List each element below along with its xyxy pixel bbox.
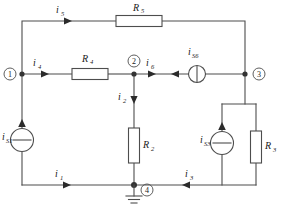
current-i1-subscript: 1: [60, 174, 63, 181]
current-source-iS1-label: i: [2, 131, 5, 142]
current-i6-arrowhead: [148, 70, 156, 77]
resistor-R5-subscript: 5: [141, 7, 145, 14]
node-2: 2: [128, 55, 140, 77]
current-i2: i 2: [118, 91, 138, 104]
current-source-iS1: i S1: [2, 119, 34, 152]
resistor-R4-subscript: 4: [90, 58, 94, 65]
resistor-R5-body: [116, 16, 162, 27]
node-3-dot: [242, 71, 247, 76]
current-source-iS3-label: i: [200, 134, 203, 145]
circuit-svg-canvas: R 5 R 4 R 2 R 3 i S1: [0, 0, 288, 215]
current-i5-arrowhead: [64, 17, 72, 24]
node-2-number: 2: [132, 57, 136, 66]
ground-symbol: [126, 185, 142, 203]
current-source-iS1-subscript: S1: [6, 137, 13, 144]
current-source-iS3-arrow: [218, 122, 226, 130]
current-i3-label: i: [185, 168, 188, 179]
resistor-R4-body: [72, 69, 108, 80]
current-source-iS6-arrow: [171, 70, 179, 77]
current-source-iS1-arrow: [18, 119, 26, 127]
resistor-R5: R 5: [116, 2, 162, 27]
current-source-iS6-label: i: [188, 46, 191, 57]
current-i5-subscript: 5: [61, 10, 65, 17]
resistor-R3: R 3: [251, 131, 278, 163]
node-3: 3: [242, 68, 265, 80]
current-i2-subscript: 2: [123, 97, 127, 104]
current-source-iS6: i S6: [171, 46, 206, 83]
resistor-R3-body: [251, 131, 262, 163]
resistor-R4: R 4: [72, 53, 108, 80]
resistor-R3-label: R: [264, 140, 271, 151]
current-i4-subscript: 4: [38, 63, 42, 70]
wire-top-left-segment: [22, 21, 116, 74]
resistor-R2-subscript: 2: [151, 145, 155, 152]
current-i3-subscript: 3: [189, 174, 194, 181]
current-i6-subscript: 6: [151, 63, 155, 70]
node-1-dot: [19, 71, 24, 76]
node-1-number: 1: [8, 70, 12, 79]
current-i2-label: i: [118, 91, 121, 102]
resistor-R2: R 2: [129, 128, 156, 163]
current-i1-arrowhead: [63, 181, 71, 188]
resistor-R3-subscript: 3: [272, 146, 277, 153]
resistor-R4-label: R: [81, 53, 88, 64]
current-i2-arrowhead: [130, 96, 137, 104]
current-source-iS6-subscript: S6: [192, 52, 199, 59]
circuit-diagram: R 5 R 4 R 2 R 3 i S1: [0, 0, 288, 215]
current-i5-label: i: [56, 4, 59, 15]
current-i3-arrowhead: [182, 181, 190, 188]
current-i1-label: i: [55, 168, 58, 179]
current-i4-label: i: [33, 57, 36, 68]
node-4-number: 4: [145, 186, 149, 195]
resistor-R2-label: R: [142, 139, 149, 150]
current-i4-arrowhead: [41, 70, 49, 77]
current-source-iS3-subscript: S3: [204, 140, 211, 147]
node-3-number: 3: [257, 70, 261, 79]
current-i6-label: i: [146, 57, 149, 68]
wire-top-right-segment: [162, 21, 245, 74]
resistor-R2-body: [129, 128, 140, 163]
node-2-dot: [131, 71, 136, 76]
resistor-R5-label: R: [132, 2, 139, 13]
current-source-iS3: i S3: [200, 122, 234, 155]
